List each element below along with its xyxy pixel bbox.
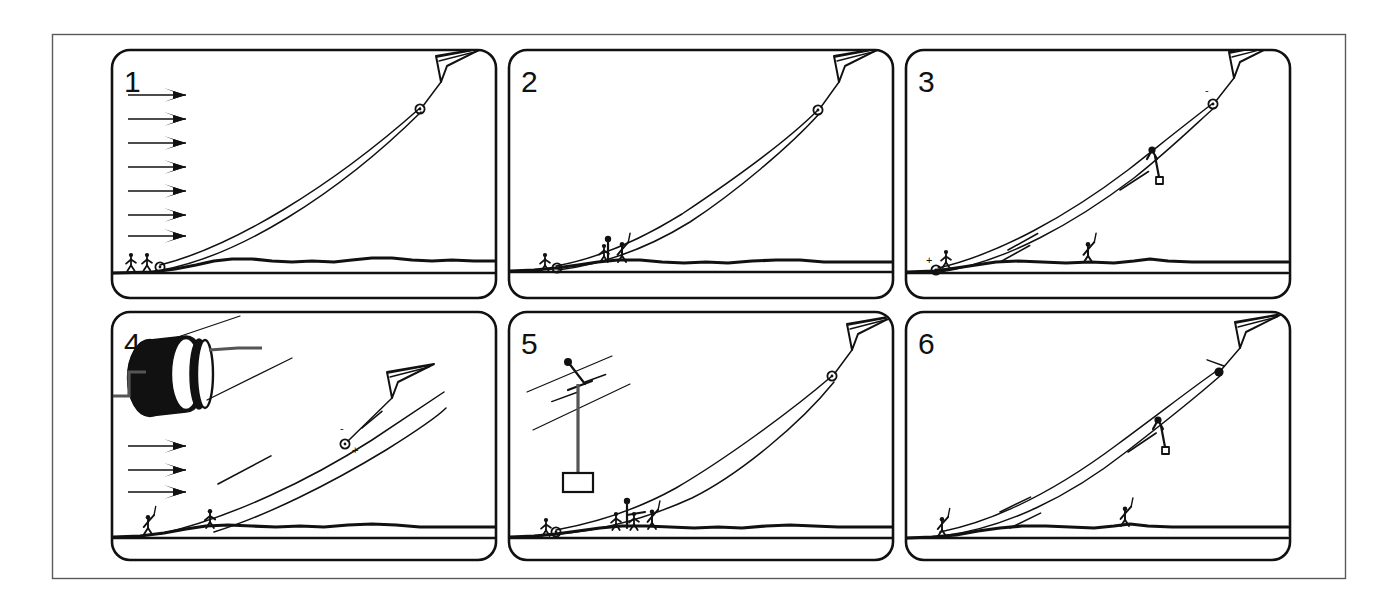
panel-4: - +: [108, 312, 496, 560]
panel-2: 2: [509, 48, 893, 298]
panel-3-polarity-minus: -: [1205, 84, 1209, 96]
panel-2-number: 2: [521, 65, 538, 98]
panel-5: 5: [509, 312, 894, 560]
panel-6-frame: [906, 312, 1290, 560]
panel-6: 6: [906, 312, 1290, 560]
panel-3-number: 3: [918, 65, 935, 98]
panel-5-detail-load-box: [563, 473, 593, 492]
panel-5-frame: [509, 312, 893, 560]
panel-1: 1: [112, 48, 496, 298]
panel-4-polarity-plus: +: [352, 444, 358, 456]
panel-6-number: 6: [918, 327, 935, 360]
line-art-figure: 1: [0, 0, 1394, 604]
panel-3-polarity-plus: +: [926, 254, 932, 266]
panel-5-number: 5: [521, 327, 538, 360]
panel-3: -: [906, 44, 1290, 298]
figure-root: 1: [0, 0, 1394, 604]
panel-1-number: 1: [124, 65, 141, 98]
panel-4-number: 4: [124, 327, 141, 360]
panel-4-polarity-minus: -: [340, 422, 344, 434]
